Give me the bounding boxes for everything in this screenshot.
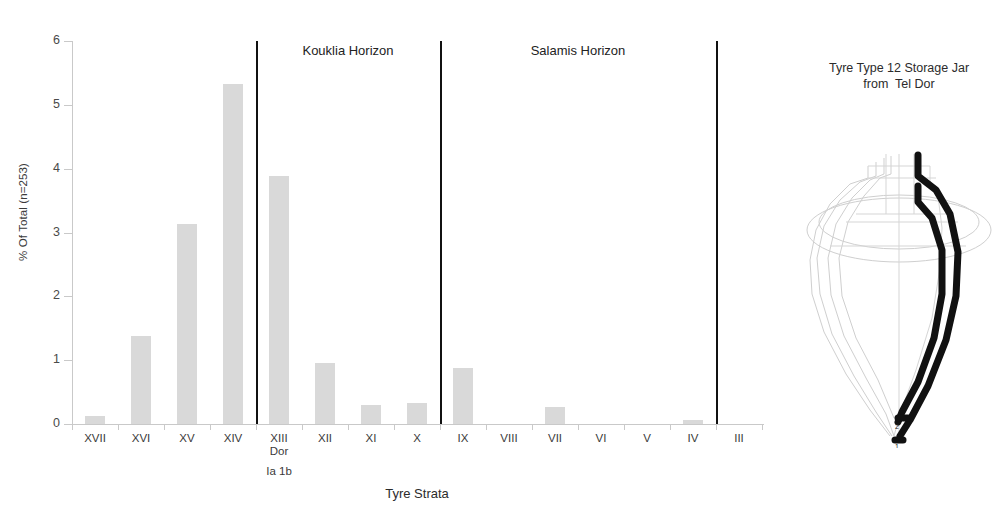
x-category-sub2: Ia 1b (256, 465, 302, 478)
x-category-label: XIIIDorIa 1b (256, 432, 302, 478)
y-tick (64, 105, 72, 106)
x-tick (394, 424, 395, 430)
x-category-main: XV (179, 432, 194, 444)
jar-title-line2: from Tel Dor (863, 77, 934, 91)
x-category-label: VIII (486, 432, 532, 445)
y-tick-label: 4 (34, 162, 60, 175)
y-tick (64, 169, 72, 170)
x-tick (486, 424, 487, 430)
x-category-label: XV (164, 432, 210, 445)
x-tick (624, 424, 625, 430)
y-tick-label: 2 (34, 289, 60, 302)
horizon-divider (716, 41, 718, 424)
y-tick (64, 360, 72, 361)
x-category-label: VI (578, 432, 624, 445)
bar (269, 176, 289, 424)
x-category-main: XVII (84, 432, 106, 444)
x-tick (440, 424, 441, 430)
y-axis-title: % Of Total (n=253) (17, 127, 29, 297)
x-category-sub: Dor (256, 445, 302, 458)
jar-title-line1: Tyre Type 12 Storage Jar (829, 61, 969, 75)
bar-series (72, 41, 762, 424)
x-category-main: XIV (224, 432, 243, 444)
x-category-label: XI (348, 432, 394, 445)
jar-ghost-body (830, 154, 966, 440)
x-tick (256, 424, 257, 430)
x-tick (210, 424, 211, 430)
x-tick (578, 424, 579, 430)
y-tick (64, 41, 72, 42)
x-category-main: III (734, 432, 744, 444)
x-axis-title: Tyre Strata (72, 486, 762, 501)
x-tick (670, 424, 671, 430)
y-tick-label: 5 (34, 98, 60, 111)
x-category-main: VI (596, 432, 607, 444)
bar (315, 363, 335, 424)
x-category-main: XIII (270, 432, 287, 444)
x-category-main: IX (458, 432, 469, 444)
x-tick (532, 424, 533, 430)
storage-jar-drawing: 2 1 (790, 118, 1008, 448)
x-tick (762, 424, 763, 430)
x-axis-line (72, 424, 764, 425)
x-tick (164, 424, 165, 430)
x-category-label: VII (532, 432, 578, 445)
horizon-divider (256, 41, 258, 424)
jar-bold-profile-inner (898, 186, 942, 422)
x-tick (348, 424, 349, 430)
jar-illustration-panel: Tyre Type 12 Storage Jar from Tel Dor (790, 0, 1008, 525)
y-tick (64, 296, 72, 297)
x-category-label: XII (302, 432, 348, 445)
bar-chart: % Of Total (n=253) 0123456 Kouklia Horiz… (0, 0, 790, 525)
x-category-main: VII (548, 432, 562, 444)
bar (131, 336, 151, 424)
y-tick (64, 233, 72, 234)
y-tick-label: 1 (34, 353, 60, 366)
x-category-label: V (624, 432, 670, 445)
profile-label-1: 1 (895, 443, 899, 448)
x-category-main: XI (366, 432, 377, 444)
bar (683, 420, 703, 424)
bar (361, 405, 381, 424)
y-tick-label: 6 (34, 34, 60, 47)
x-category-main: IV (688, 432, 699, 444)
x-category-label: III (716, 432, 762, 445)
y-tick (64, 424, 72, 425)
profile-label-2: 2 (895, 423, 899, 430)
x-tick (302, 424, 303, 430)
x-category-main: X (413, 432, 421, 444)
x-category-label: XVI (118, 432, 164, 445)
y-tick-label: 3 (34, 226, 60, 239)
jar-title: Tyre Type 12 Storage Jar from Tel Dor (790, 60, 1008, 92)
bar (85, 416, 105, 424)
bar (545, 407, 565, 424)
x-category-main: VIII (500, 432, 517, 444)
x-tick (118, 424, 119, 430)
x-category-label: IX (440, 432, 486, 445)
horizon-divider (440, 41, 442, 424)
figure-root: % Of Total (n=253) 0123456 Kouklia Horiz… (0, 0, 1008, 525)
x-category-label: XVII (72, 432, 118, 445)
y-tick-label: 0 (34, 417, 60, 430)
horizon-label-salamis: Salamis Horizon (440, 43, 716, 58)
x-tick (72, 424, 73, 430)
bar (453, 368, 473, 424)
x-category-main: V (643, 432, 651, 444)
x-category-main: XVI (132, 432, 151, 444)
x-tick (716, 424, 717, 430)
bar (177, 224, 197, 424)
x-category-label: IV (670, 432, 716, 445)
x-category-label: X (394, 432, 440, 445)
x-category-main: XII (318, 432, 332, 444)
bar (223, 84, 243, 424)
horizon-label-kouklia: Kouklia Horizon (256, 43, 440, 58)
x-category-label: XIV (210, 432, 256, 445)
bar (407, 403, 427, 424)
